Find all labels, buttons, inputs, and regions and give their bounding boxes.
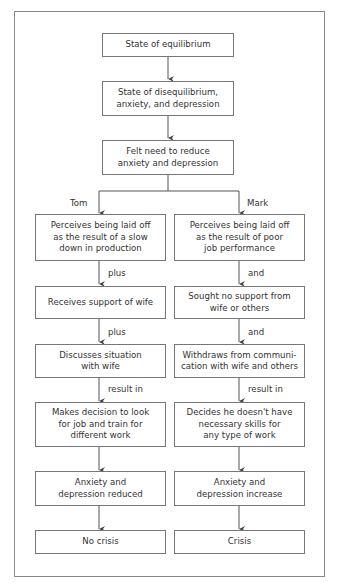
mark-box-crisis: Crisis: [174, 530, 305, 554]
tom-box-support: Receives support of wife: [35, 286, 166, 319]
box-state-of-disequilibrium: State of disequilibrium, anxiety, and de…: [102, 81, 234, 116]
mark-box-no-support: Sought no support from wife or others: [174, 286, 305, 319]
tom-box-decision: Makes decision to look for job and train…: [35, 402, 166, 447]
box-felt-need: Felt need to reduce anxiety and depressi…: [102, 140, 234, 175]
tom-box-anxiety-reduced: Anxiety and depression reduced: [35, 471, 166, 506]
mark-box-withdraws: Withdraws from communi- cation with wife…: [174, 344, 305, 378]
mark-connector-and-1: and: [248, 268, 264, 278]
tom-connector-plus-2: plus: [108, 327, 126, 337]
branch-label-tom: Tom: [70, 198, 87, 208]
mark-box-perceives: Perceives being laid off as the result o…: [174, 214, 305, 261]
branch-label-mark: Mark: [247, 198, 268, 208]
box-state-of-equilibrium: State of equilibrium: [102, 33, 234, 57]
mark-box-decides: Decides he doesn't have necessary skills…: [174, 402, 305, 447]
tom-box-discusses: Discusses situation with wife: [35, 344, 166, 378]
mark-connector-result-in: result in: [248, 384, 283, 394]
mark-connector-and-2: and: [248, 327, 264, 337]
tom-box-no-crisis: No crisis: [35, 530, 166, 554]
tom-box-perceives: Perceives being laid off as the result o…: [35, 214, 166, 261]
tom-connector-result-in: result in: [108, 384, 143, 394]
mark-box-anxiety-increase: Anxiety and depression increase: [174, 471, 305, 506]
tom-connector-plus-1: plus: [108, 268, 126, 278]
